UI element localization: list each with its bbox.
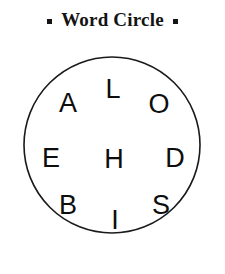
- circle-letter: I: [100, 207, 130, 234]
- circle-letter: O: [144, 91, 174, 118]
- word-circle-page: Word Circle A L O E H D B I S: [0, 0, 225, 274]
- word-circle-puzzle: A L O E H D B I S: [0, 0, 225, 274]
- circle-letter: E: [36, 145, 66, 172]
- circle-letter: D: [160, 145, 190, 172]
- circle-letter: B: [53, 192, 83, 219]
- circle-letter: L: [98, 76, 128, 103]
- circle-letter: S: [146, 192, 176, 219]
- circle-letter: A: [53, 90, 83, 117]
- circle-letter: H: [99, 146, 129, 173]
